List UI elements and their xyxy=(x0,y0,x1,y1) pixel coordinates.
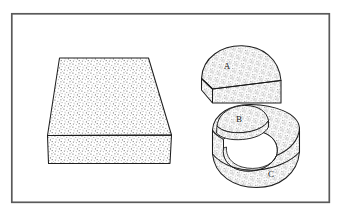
c-shaped-solid: B C xyxy=(213,104,300,187)
solids-illustration: A B C xyxy=(0,0,340,214)
half-disc-solid: A xyxy=(202,46,282,103)
trapezoidal-slab xyxy=(48,58,172,164)
label-a: A xyxy=(224,61,231,71)
label-b: B xyxy=(236,114,242,124)
slab-parting-line xyxy=(48,135,172,136)
figure-canvas: A B C xyxy=(0,0,340,214)
slab-top-face xyxy=(48,58,172,136)
slab-front-face xyxy=(48,135,172,164)
label-c: C xyxy=(268,169,274,179)
